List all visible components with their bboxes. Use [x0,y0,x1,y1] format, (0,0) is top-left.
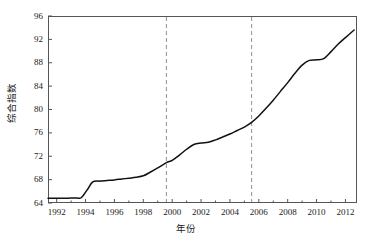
y-tick-label: 88 [3,58,43,67]
y-axis-ticks [48,16,52,203]
y-tick-label: 72 [3,152,43,161]
y-tick-label: 64 [3,199,43,208]
y-tick-label: 92 [3,35,43,44]
y-axis-title: 综合指数 [7,67,17,139]
annotation-dashed-lines [166,17,251,202]
x-axis-title: 年份 [0,224,372,234]
x-tick-label: 2012 [325,208,365,217]
line-chart: 646872768084889296 199219941996199820002… [0,0,372,249]
x-axis-ticks [57,199,346,203]
y-tick-label: 96 [3,12,43,21]
y-tick-label: 68 [3,175,43,184]
data-series-composite-index [48,30,354,198]
